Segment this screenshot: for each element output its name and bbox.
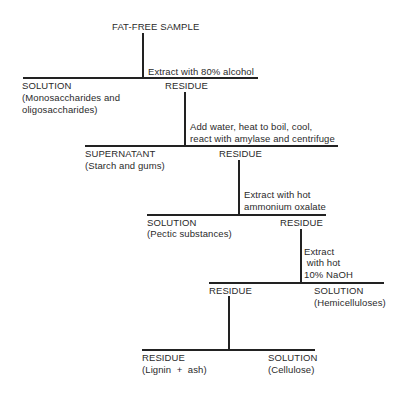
step3-procedure-1: Extract with hot <box>244 189 311 201</box>
step4-right-label: SOLUTION <box>314 285 363 297</box>
split-line-3 <box>147 214 326 216</box>
step1-right-label: RESIDUE <box>165 80 208 92</box>
step2-procedure-1: Add water, heat to boil, cool, <box>190 121 312 133</box>
fractionation-flow-diagram: FAT-FREE SAMPLE Extract with 80% alcohol… <box>0 0 404 395</box>
step5-right-detail: (Cellulose) <box>268 364 315 376</box>
step2-left-detail: (Starch and gums) <box>85 160 165 172</box>
step4-right-detail: (Hemicelluloses) <box>314 297 386 309</box>
step1-left-detail-2: oligosaccharides) <box>22 104 98 116</box>
root-node-label: FAT-FREE SAMPLE <box>112 21 199 33</box>
step2-right-label: RESIDUE <box>219 148 262 160</box>
step4-procedure-2: with hot <box>304 257 340 269</box>
step5-right-label: SOLUTION <box>268 352 317 364</box>
step3-left-label: SOLUTION <box>147 217 196 229</box>
step3-left-detail: (Pectic substances) <box>147 228 232 240</box>
step4-procedure-3: 10% NaOH <box>304 269 353 281</box>
split-line-5 <box>142 349 315 351</box>
split-line-4 <box>209 282 384 284</box>
split-line-2 <box>85 145 338 147</box>
split-line-1 <box>23 77 258 79</box>
step2-left-label: SUPERNATANT <box>85 148 155 160</box>
step3-right-label: RESIDUE <box>280 217 323 229</box>
step1-left-detail-1: (Monosaccharides and <box>22 92 120 104</box>
step1-procedure: Extract with 80% alcohol <box>148 66 254 78</box>
step5-left-detail: (Lignin + ash) <box>142 364 207 376</box>
connector-2 <box>238 160 240 216</box>
step2-procedure-2: react with amylase and centrifuge <box>190 133 335 145</box>
step4-procedure-1: Extract <box>304 246 334 258</box>
connector-4 <box>228 296 230 351</box>
step1-left-label: SOLUTION <box>22 80 71 92</box>
step5-left-label: RESIDUE <box>142 352 185 364</box>
connector-1 <box>184 92 186 147</box>
step3-procedure-2: ammonium oxalate <box>244 201 326 213</box>
step4-left-label: RESIDUE <box>209 285 252 297</box>
connector-3 <box>300 229 302 284</box>
connector-root <box>142 33 144 79</box>
